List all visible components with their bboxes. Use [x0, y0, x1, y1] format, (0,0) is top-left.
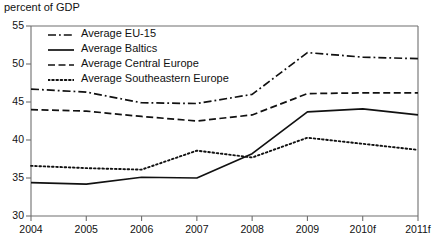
x-axis-label: 2009: [283, 224, 331, 235]
chart-legend: Average EU-15Average BalticsAverage Cent…: [48, 26, 229, 85]
legend-line-swatch: [48, 72, 74, 84]
y-axis-label: 55: [4, 20, 24, 31]
x-axis-label: 2007: [173, 224, 221, 235]
y-axis-label: 35: [4, 172, 24, 183]
x-axis-label: 2005: [62, 224, 110, 235]
legend-item: Average EU-15: [48, 26, 229, 40]
y-axis-label: 45: [4, 96, 24, 107]
x-axis-label: 2011f: [394, 224, 436, 235]
x-axis-label: 2008: [228, 224, 276, 235]
series-line-3: [31, 93, 418, 121]
y-axis-label: 50: [4, 58, 24, 69]
legend-item: Average Central Europe: [48, 56, 229, 70]
series-line-4: [31, 138, 418, 170]
legend-label: Average Baltics: [81, 42, 157, 54]
legend-line-swatch: [48, 57, 74, 69]
y-axis-label: 30: [4, 210, 24, 221]
legend-line-swatch: [48, 27, 74, 39]
legend-line-swatch: [48, 42, 74, 54]
legend-label: Average Central Europe: [81, 57, 199, 69]
x-axis-label: 2004: [7, 224, 55, 235]
x-axis-label: 2010f: [339, 224, 387, 235]
series-line-2: [31, 109, 418, 184]
legend-label: Average Southeastern Europe: [81, 72, 229, 84]
legend-item: Average Southeastern Europe: [48, 71, 229, 85]
legend-item: Average Baltics: [48, 41, 229, 55]
legend-label: Average EU-15: [81, 27, 156, 39]
y-axis-label: 40: [4, 134, 24, 145]
chart-container: percent of GDP 303540455055 200420052006…: [0, 0, 436, 252]
x-axis-label: 2006: [118, 224, 166, 235]
